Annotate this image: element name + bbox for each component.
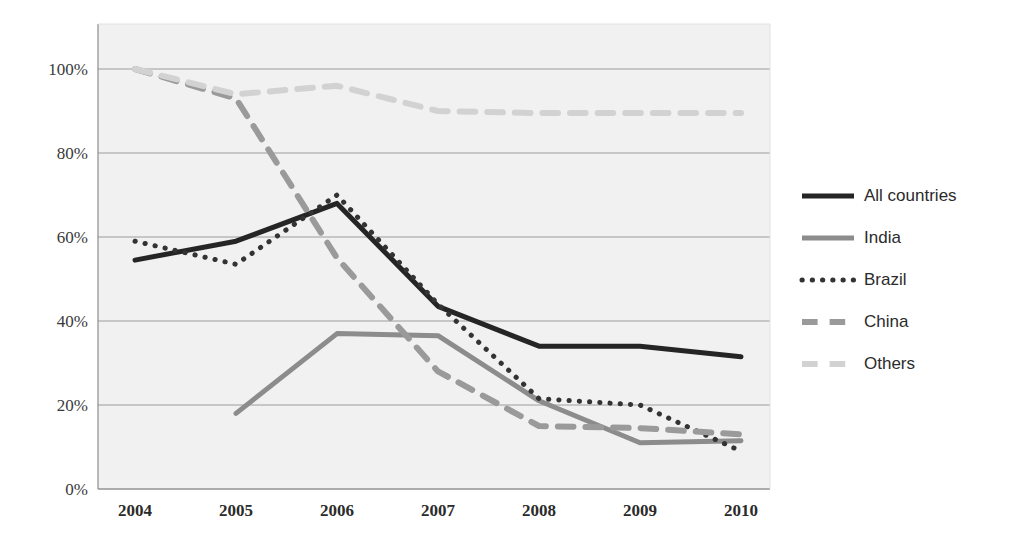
y-tick-label: 100% [48, 60, 88, 79]
chart-canvas: 0%20%40%60%80%100% 200420052006200720082… [0, 0, 1017, 546]
legend-label-india: India [864, 228, 901, 247]
x-tick-label: 2006 [320, 501, 354, 520]
x-tick-label: 2005 [219, 501, 253, 520]
y-axis-tick-labels: 0%20%40%60%80%100% [48, 60, 88, 499]
legend-label-all-countries: All countries [864, 186, 957, 205]
y-tick-label: 60% [57, 228, 88, 247]
x-tick-label: 2009 [623, 501, 657, 520]
legend-label-others: Others [864, 354, 915, 373]
line-chart: 0%20%40%60%80%100% 200420052006200720082… [0, 0, 1017, 546]
y-tick-label: 20% [57, 396, 88, 415]
y-tick-label: 80% [57, 144, 88, 163]
x-tick-label: 2010 [724, 501, 758, 520]
chart-legend: All countriesIndiaBrazilChinaOthers [802, 186, 957, 373]
y-tick-label: 0% [65, 480, 88, 499]
x-tick-label: 2007 [421, 501, 456, 520]
x-axis-tick-labels: 2004200520062007200820092010 [118, 501, 758, 520]
x-tick-label: 2004 [118, 501, 153, 520]
x-tick-label: 2008 [522, 501, 556, 520]
legend-label-brazil: Brazil [864, 270, 907, 289]
legend-label-china: China [864, 312, 909, 331]
y-tick-label: 40% [57, 312, 88, 331]
